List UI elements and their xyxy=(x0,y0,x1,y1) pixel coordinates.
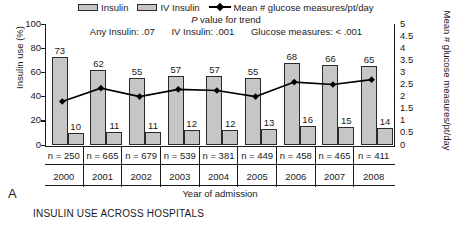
table-cell-n: n = 449 xyxy=(238,147,277,165)
legend-label-iv-insulin: IV Insulin xyxy=(160,2,199,13)
table-cell-year: 2007 xyxy=(316,165,355,187)
legend-label-glucose-measures: Mean # glucose measures/pt/day xyxy=(234,2,374,13)
y-right-tick-label: 1 xyxy=(400,114,426,125)
line-marker-diamond xyxy=(214,87,221,94)
y-left-tick-label: 100 xyxy=(1,18,41,29)
table-cell-year: 2006 xyxy=(277,165,316,187)
line-marker-diamond xyxy=(368,76,375,83)
line-marker-diamond xyxy=(98,85,105,92)
table-row-divider xyxy=(45,164,395,165)
table-cell-year: 2002 xyxy=(122,165,161,187)
legend-item-glucose-measures: Mean # glucose measures/pt/day xyxy=(209,2,374,13)
table-cell-year: 2004 xyxy=(200,165,239,187)
line-marker-diamond xyxy=(59,98,66,105)
table-cell-n: n = 250 xyxy=(45,147,84,165)
legend-swatch-line-diamond xyxy=(209,3,231,11)
y-axis-right-line xyxy=(394,24,395,146)
y-left-tick-label: 0 xyxy=(1,139,41,150)
y-axis-right-label: Mean # glucose measures/pt/day xyxy=(442,7,452,155)
y-right-tick-label: 0.5 xyxy=(400,126,426,137)
y-left-tick-mark xyxy=(41,96,45,97)
line-marker-diamond xyxy=(252,93,259,100)
chart-legend: Insulin IV Insulin Mean # glucose measur… xyxy=(78,1,408,13)
legend-swatch-iv-insulin xyxy=(137,4,157,11)
legend-swatch-insulin xyxy=(78,4,98,11)
line-marker-diamond xyxy=(330,81,337,88)
glucose-measures-line-series xyxy=(46,24,394,145)
line-marker-diamond xyxy=(136,93,143,100)
table-cell-year: 2003 xyxy=(161,165,200,187)
x-axis-label: Year of admission xyxy=(46,188,394,199)
y-axis-right-ticks: 00.511.522.533.544.55 xyxy=(400,0,430,226)
table-cell-year: 2005 xyxy=(238,165,277,187)
table-cell-year: 2000 xyxy=(45,165,84,187)
line-marker-diamond xyxy=(175,86,182,93)
table-cell-year: 2008 xyxy=(354,165,393,187)
legend-item-iv-insulin: IV Insulin xyxy=(137,2,199,13)
table-cell-n: n = 458 xyxy=(277,147,316,165)
data-table: n = 250n = 665n = 679n = 539n = 381n = 4… xyxy=(45,146,395,186)
y-right-tick-label: 1.5 xyxy=(400,102,426,113)
table-cell-year: 2001 xyxy=(84,165,123,187)
y-right-tick-label: 3.5 xyxy=(400,54,426,65)
y-right-tick-label: 0 xyxy=(400,139,426,150)
table-cell-n: n = 465 xyxy=(316,147,355,165)
table-cell-n: n = 539 xyxy=(161,147,200,165)
legend-item-insulin: Insulin xyxy=(78,2,128,13)
y-left-tick-mark xyxy=(41,24,45,25)
legend-label-insulin: Insulin xyxy=(101,2,128,13)
y-right-tick-label: 2.5 xyxy=(400,78,426,89)
table-cell-n: n = 381 xyxy=(200,147,239,165)
y-right-tick-label: 3 xyxy=(400,66,426,77)
figure-panel-a: Insulin IV Insulin Mean # glucose measur… xyxy=(0,0,452,226)
y-left-tick-label: 60 xyxy=(1,66,41,77)
y-left-tick-mark xyxy=(41,120,45,121)
figure-caption: INSULIN USE ACROSS HOSPITALS xyxy=(33,208,204,219)
table-cell-n: n = 679 xyxy=(122,147,161,165)
y-right-tick-label: 5 xyxy=(400,18,426,29)
y-left-tick-mark xyxy=(41,72,45,73)
line-marker-diamond xyxy=(291,79,298,86)
y-right-tick-label: 4 xyxy=(400,42,426,53)
panel-letter: A xyxy=(8,186,17,201)
y-right-tick-label: 2 xyxy=(400,90,426,101)
table-cell-n: n = 665 xyxy=(84,147,123,165)
y-left-tick-mark xyxy=(41,48,45,49)
y-left-tick-label: 40 xyxy=(1,90,41,101)
y-axis-left-ticks: 020406080100 xyxy=(0,0,41,226)
table-cell-n: n = 411 xyxy=(354,147,393,165)
y-left-tick-label: 80 xyxy=(1,42,41,53)
y-right-tick-label: 4.5 xyxy=(400,30,426,41)
y-left-tick-label: 20 xyxy=(1,114,41,125)
